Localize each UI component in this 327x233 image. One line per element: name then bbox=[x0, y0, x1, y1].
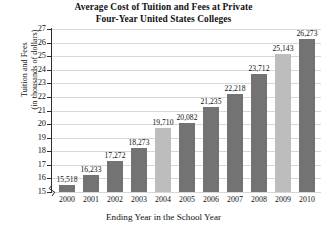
bar-value-label: 15,518 bbox=[57, 176, 78, 184]
y-tick-mark bbox=[47, 138, 51, 139]
x-tick-label: 2005 bbox=[179, 195, 195, 204]
x-tick-label: 2008 bbox=[251, 195, 267, 204]
y-tick-mark bbox=[47, 56, 51, 57]
y-tick-label: 23 bbox=[38, 79, 46, 87]
axis-break-icon bbox=[48, 185, 56, 196]
bar-value-label: 19,710 bbox=[153, 119, 174, 127]
x-tick-label: 2001 bbox=[83, 195, 99, 204]
x-axis-title: Ending Year in the School Year bbox=[0, 212, 327, 223]
x-tick-label: 2007 bbox=[227, 195, 243, 204]
y-tick-label: 17 bbox=[38, 161, 46, 169]
bar: 21,235 bbox=[203, 107, 219, 192]
gridline bbox=[52, 29, 321, 30]
y-tick-mark bbox=[47, 97, 51, 98]
bar-value-label: 22,218 bbox=[225, 85, 246, 93]
y-axis-title-line-1: Tuition and Fees bbox=[20, 0, 30, 150]
x-tick-label: 2002 bbox=[107, 195, 123, 204]
x-tick-label: 2006 bbox=[203, 195, 219, 204]
bar-value-label: 17,272 bbox=[105, 152, 126, 160]
bar-value-label: 26,273 bbox=[297, 30, 318, 38]
y-tick-mark bbox=[47, 124, 51, 125]
y-tick-label: 25 bbox=[38, 52, 46, 60]
y-tick-label: 15 bbox=[38, 188, 46, 196]
y-tick-label: 18 bbox=[38, 147, 46, 155]
x-tick-label: 2004 bbox=[155, 195, 171, 204]
bar: 17,272 bbox=[107, 161, 123, 192]
y-tick-label: 27 bbox=[38, 25, 46, 33]
x-tick-label: 2003 bbox=[131, 195, 147, 204]
chart-figure: Average Cost of Tuition and Fees at Priv… bbox=[0, 0, 327, 233]
bar: 16,233 bbox=[83, 175, 99, 192]
bar-value-label: 18,273 bbox=[129, 139, 150, 147]
bar-value-label: 21,235 bbox=[201, 98, 222, 106]
bar: 23,712 bbox=[251, 74, 267, 192]
bar: 26,273 bbox=[299, 39, 315, 192]
bar-value-label: 20,082 bbox=[177, 114, 198, 122]
y-tick-mark bbox=[47, 178, 51, 179]
y-tick-label: 19 bbox=[38, 133, 46, 141]
y-tick-mark bbox=[47, 111, 51, 112]
plot-area: 15161718192021222324252627 15,51816,2331… bbox=[51, 28, 321, 193]
bar: 22,218 bbox=[227, 94, 243, 192]
gridline bbox=[52, 192, 321, 193]
bar: 15,518 bbox=[59, 185, 75, 192]
y-tick-label: 22 bbox=[38, 93, 46, 101]
y-tick-mark bbox=[47, 151, 51, 152]
bar: 18,273 bbox=[131, 148, 147, 192]
chart-title-line-1: Average Cost of Tuition and Fees at Priv… bbox=[0, 2, 327, 14]
bar: 25,143 bbox=[275, 54, 291, 192]
y-tick-mark bbox=[47, 83, 51, 84]
bar: 19,710 bbox=[155, 128, 171, 192]
y-tick-mark bbox=[47, 29, 51, 30]
bar-value-label: 23,712 bbox=[249, 65, 270, 73]
y-tick-label: 26 bbox=[38, 38, 46, 46]
x-tick-label: 2009 bbox=[275, 195, 291, 204]
y-tick-mark bbox=[47, 165, 51, 166]
y-tick-label: 24 bbox=[38, 66, 46, 74]
y-tick-label: 20 bbox=[38, 120, 46, 128]
x-tick-label: 2010 bbox=[299, 195, 315, 204]
bar: 20,082 bbox=[179, 123, 195, 192]
x-tick-label: 2000 bbox=[59, 195, 75, 204]
y-tick-mark bbox=[47, 43, 51, 44]
y-tick-mark bbox=[47, 70, 51, 71]
chart-title-line-2: Four-Year United States Colleges bbox=[0, 14, 327, 26]
bar-value-label: 25,143 bbox=[273, 45, 294, 53]
bar-value-label: 16,233 bbox=[81, 166, 102, 174]
y-tick-label: 21 bbox=[38, 106, 46, 114]
y-tick-label: 16 bbox=[38, 174, 46, 182]
chart-title: Average Cost of Tuition and Fees at Priv… bbox=[0, 2, 327, 25]
